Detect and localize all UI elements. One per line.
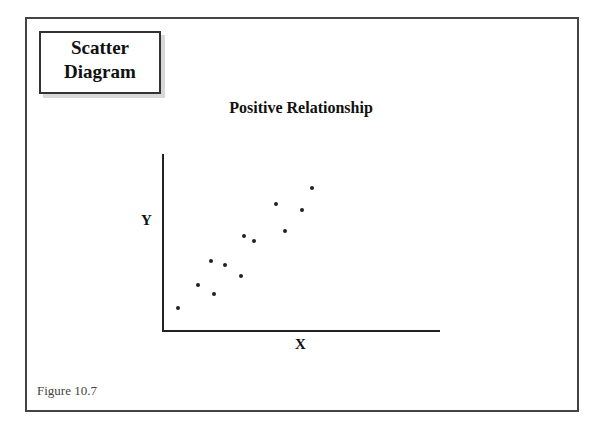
data-point xyxy=(239,274,243,278)
data-point xyxy=(176,306,180,310)
data-point xyxy=(274,202,278,206)
data-point xyxy=(196,283,200,287)
chart-title: Positive Relationship xyxy=(150,99,452,117)
y-axis xyxy=(162,154,164,332)
slide-title-box: Scatter Diagram xyxy=(39,31,161,94)
data-point xyxy=(283,229,287,233)
y-axis-label: Y xyxy=(141,212,152,229)
data-point xyxy=(252,239,256,243)
slide-title-line1: Scatter xyxy=(41,36,159,60)
figure-label: Figure 10.7 xyxy=(37,383,97,399)
x-axis-label: X xyxy=(295,336,306,353)
data-point xyxy=(212,292,216,296)
data-point xyxy=(242,234,246,238)
data-point xyxy=(223,263,227,267)
slide-title-line2: Diagram xyxy=(41,60,159,84)
data-point xyxy=(310,186,314,190)
data-point xyxy=(209,259,213,263)
data-point xyxy=(300,208,304,212)
x-axis xyxy=(162,330,440,332)
